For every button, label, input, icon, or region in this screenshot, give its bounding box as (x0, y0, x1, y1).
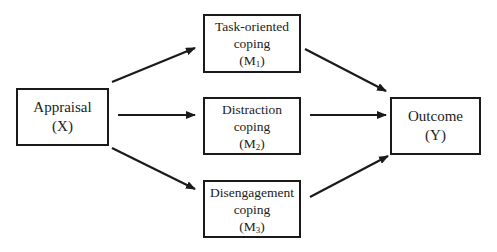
node-disengagement-coping: Disengagement coping (M3) (203, 180, 301, 238)
node-disengagement-label: Disengagement (210, 184, 294, 201)
node-outcome-label: Outcome (408, 107, 463, 126)
node-appraisal-symbol: (X) (52, 117, 73, 136)
arrow-appraisal-to-task-oriented (112, 48, 195, 82)
arrow-disengagement-to-outcome (310, 156, 388, 197)
node-appraisal-label: Appraisal (33, 98, 91, 117)
node-appraisal: Appraisal (X) (16, 88, 109, 146)
arrow-appraisal-to-disengagement (112, 148, 195, 189)
node-distraction-coping: Distraction coping (M2) (203, 97, 301, 155)
node-task-oriented-coping: Task-oriented coping (M1) (203, 14, 301, 73)
node-distraction-symbol: (M2) (239, 135, 265, 152)
node-outcome-symbol: (Y) (425, 126, 446, 145)
node-disengagement-label2: coping (234, 201, 271, 218)
arrow-task-oriented-to-outcome (305, 49, 386, 91)
node-distraction-label: Distraction (222, 101, 282, 118)
node-task-oriented-label: Task-oriented (215, 18, 289, 35)
node-disengagement-symbol: (M3) (239, 218, 265, 235)
node-distraction-label2: coping (234, 118, 271, 135)
node-outcome: Outcome (Y) (390, 97, 481, 155)
mediation-diagram: Appraisal (X) Task-oriented coping (M1) … (0, 0, 497, 252)
node-task-oriented-label2: coping (234, 35, 271, 52)
node-task-oriented-symbol: (M1) (239, 52, 265, 69)
